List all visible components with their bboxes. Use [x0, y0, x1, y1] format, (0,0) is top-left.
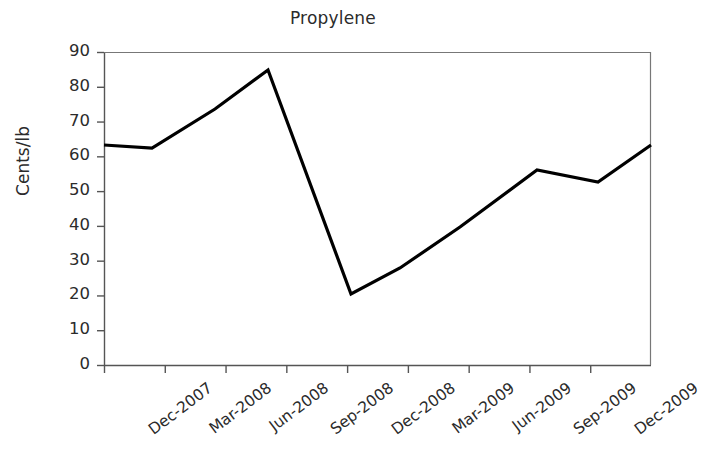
- data-series-line: [104, 70, 651, 294]
- y-axis-ticks: [97, 53, 104, 366]
- axis-lines: [104, 52, 651, 366]
- x-axis-ticks: [105, 365, 591, 373]
